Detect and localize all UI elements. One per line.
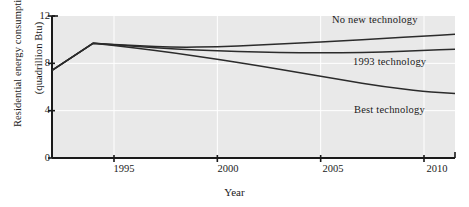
- x-axis-label: Year: [0, 186, 469, 198]
- y-axis-tick-labels: 12 8 4 0: [24, 0, 50, 207]
- x-tick-label-2000: 2000: [203, 163, 253, 174]
- y-tick-label-8: 8: [28, 58, 50, 68]
- x-tick-label-2010: 2010: [412, 163, 462, 174]
- y-tick-label-12: 12: [28, 11, 50, 21]
- y-axis-label-line1: Residential energy consumption: [12, 0, 24, 138]
- x-tick-label-2005: 2005: [308, 163, 358, 174]
- series-label-best-technology: Best technology: [354, 104, 425, 115]
- y-tick-label-0: 0: [28, 153, 50, 163]
- series-label-1993-technology: 1993 technology: [353, 56, 426, 67]
- chart-figure: Residential energy consumption (quadrill…: [0, 0, 469, 207]
- y-tick-label-4: 4: [28, 105, 50, 115]
- x-tick-label-1995: 1995: [99, 163, 149, 174]
- series-label-no-new-technology: No new technology: [332, 14, 418, 25]
